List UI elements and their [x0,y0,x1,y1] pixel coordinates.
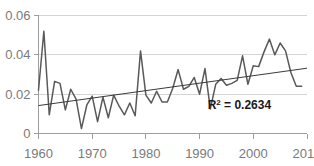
x-tick-label: 1970 [78,146,107,161]
line-chart: 00.020.040.06 196019701980199020002010 R… [0,0,314,166]
x-tick-label: 2010 [293,146,314,161]
x-tick-label: 1960 [24,146,53,161]
chart-container: 00.020.040.06 196019701980199020002010 R… [0,0,314,166]
y-tick-label: 0.04 [5,47,30,62]
y-tick-label: 0.06 [5,8,30,23]
x-tick-label: 2000 [239,146,268,161]
y-tick-label: 0.02 [5,87,30,102]
y-tick-label: 0 [23,126,30,141]
x-tick-label: 1980 [131,146,160,161]
x-tick-label: 1990 [185,146,214,161]
